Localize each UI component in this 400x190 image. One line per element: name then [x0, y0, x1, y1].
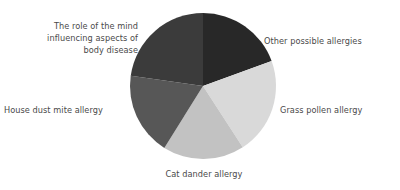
pie-slice-role-of-the-mind[interactable]: [131, 13, 203, 86]
pie-label-grass-pollen-allergy: Grass pollen allergy: [280, 104, 396, 116]
pie-label-cat-dander-allergy: Cat dander allergy: [148, 168, 260, 180]
pie-chart-figure: The role of the mind influencing aspects…: [0, 0, 400, 190]
pie-label-house-dust-mite-allergy: House dust mite allergy: [4, 104, 128, 116]
pie-label-role-of-the-mind: The role of the mind influencing aspects…: [14, 20, 138, 57]
pie-label-other-possible-allergies: Other possible allergies: [264, 35, 396, 47]
pie-slices: [130, 13, 276, 159]
